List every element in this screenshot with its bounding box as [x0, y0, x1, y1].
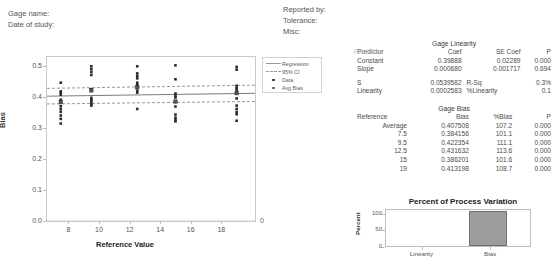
cell-p: 0.000	[513, 165, 552, 174]
legend-label-avg-bias: Avg Bias	[282, 85, 303, 91]
cell-s-value: 0.0539582	[408, 79, 463, 88]
scatter-y-tickmark	[43, 221, 46, 222]
data-point	[174, 105, 177, 108]
cell-p: 0.000	[513, 147, 552, 156]
scatter-zero-right-label: 0	[260, 217, 264, 224]
table-row: Constant 0.39888 0.02289 0.000	[356, 57, 552, 66]
data-point	[174, 120, 177, 123]
data-point	[235, 119, 238, 122]
legend-item-avg-bias[interactable]: Avg Bias	[265, 84, 319, 92]
scatter-x-tick: 8	[60, 226, 76, 233]
table-row: Linearity 0.0002583 %Linearity 0.1	[356, 87, 552, 96]
bar-chart-title: Percent of Process Variation	[388, 197, 538, 206]
cell-slope-secoef: 0.001717	[463, 65, 522, 74]
data-point	[59, 105, 62, 108]
cell-slope-p: 0.694	[522, 65, 552, 74]
header-coef: Coef	[408, 48, 463, 57]
table-row: 7.50.384156101.10.000	[356, 130, 552, 139]
bar-x-tickmark	[490, 247, 491, 250]
cell-pct-bias: 111.1	[470, 139, 513, 148]
data-point	[59, 110, 62, 113]
cell-pct-bias: 108.7	[470, 165, 513, 174]
bar-y-tick: 100	[362, 210, 382, 216]
table-row: 12.50.431632113.60.000	[356, 147, 552, 156]
cell-reference: 7.5	[356, 130, 408, 139]
legend-item-regression[interactable]: Regression	[265, 60, 319, 68]
scatter-y-tickmark	[43, 159, 46, 160]
data-point	[235, 84, 238, 87]
bar-x-tick-linearity: Linearity	[392, 250, 452, 257]
scatter-svg	[47, 57, 255, 221]
data-point	[90, 104, 93, 107]
legend-label-regression: Regression	[282, 61, 309, 67]
cell-pct-bias: 113.6	[470, 147, 513, 156]
cell-reference: Average	[356, 122, 408, 131]
data-point	[174, 113, 177, 116]
reported-by-label: Reported by:	[283, 4, 326, 15]
legend-item-data[interactable]: Data	[265, 76, 319, 84]
scatter-x-tickmark	[68, 221, 69, 224]
scatter-legend: Regression 95% CI Data Avg Bias	[262, 57, 322, 93]
cell-reference: 12.5	[356, 147, 408, 156]
cell-rsq-label: R-Sq	[463, 79, 522, 88]
avg-bias-marker	[90, 89, 93, 92]
cell-p: 0.000	[513, 156, 552, 165]
table-row: 150.386201101.60.000	[356, 156, 552, 165]
cell-slope-coef: 0.000680	[408, 65, 463, 74]
bar-y-tick: 0	[362, 243, 382, 249]
avg-bias-marker	[235, 92, 238, 95]
table-row: 9.50.422354111.10.000	[356, 139, 552, 148]
bar-bias[interactable]	[469, 211, 507, 246]
header-right-block: Reported by: Tolerance: Misc:	[283, 4, 326, 37]
avg-bias-square-icon	[265, 84, 282, 91]
data-point	[59, 114, 62, 117]
cell-constant-label: Constant	[356, 57, 408, 66]
header-p: P	[522, 48, 552, 57]
scatter-x-tick: 18	[213, 226, 229, 233]
gage-name-label: Gage name:	[8, 8, 54, 19]
header-bias-p: P	[513, 113, 552, 122]
cell-p: 0.000	[513, 139, 552, 148]
scatter-x-tickmark	[99, 221, 100, 224]
legend-label-ci: 95% CI	[282, 69, 299, 75]
table-row: Average0.407508107.20.000	[356, 122, 552, 131]
bar-y-tickmark	[382, 247, 385, 248]
data-point	[59, 108, 62, 111]
data-point	[235, 66, 238, 69]
cell-constant-secoef: 0.02289	[463, 57, 522, 66]
scatter-y-tickmark	[43, 190, 46, 191]
table-header-row: Reference Bias %Bias P	[356, 113, 552, 122]
scatter-y-tick: 0.1	[16, 186, 42, 193]
data-point	[59, 122, 62, 125]
data-point	[59, 93, 62, 96]
avg-bias-marker	[174, 100, 177, 103]
cell-constant-p: 0.000	[522, 57, 552, 66]
data-point	[174, 64, 177, 67]
cell-bias: 0.413198	[408, 165, 470, 174]
data-point	[136, 75, 139, 78]
scatter-y-tick: 0.3	[16, 124, 42, 131]
data-point	[235, 89, 238, 92]
header-left-block: Gage name: Date of study:	[8, 8, 54, 30]
cell-bias: 0.386201	[408, 156, 470, 165]
avg-bias-marker	[59, 100, 62, 103]
data-point	[235, 97, 238, 100]
cell-reference: 19	[356, 165, 408, 174]
scatter-x-axis-label: Reference Value	[96, 240, 154, 249]
bar-x-tickmark	[422, 247, 423, 250]
data-point	[90, 71, 93, 74]
cell-linearity-value: 0.0002583	[408, 87, 463, 96]
data-point	[90, 74, 93, 77]
scatter-x-tick: 14	[152, 226, 168, 233]
regression-line	[47, 93, 255, 96]
bar-y-tickmark	[382, 230, 385, 231]
gage-linearity-scatter-plot	[46, 56, 256, 222]
gage-linearity-table: Predictor Predictor Coef SE Coef P Const…	[356, 48, 552, 96]
scatter-x-tickmark	[130, 221, 131, 224]
confidence-interval-line-icon	[265, 68, 282, 75]
scatter-x-tick: 16	[183, 226, 199, 233]
cell-pct-bias: 101.6	[470, 156, 513, 165]
bar-y-tickmark	[382, 214, 385, 215]
legend-item-ci[interactable]: 95% CI	[265, 68, 319, 76]
tolerance-label: Tolerance:	[283, 15, 326, 26]
